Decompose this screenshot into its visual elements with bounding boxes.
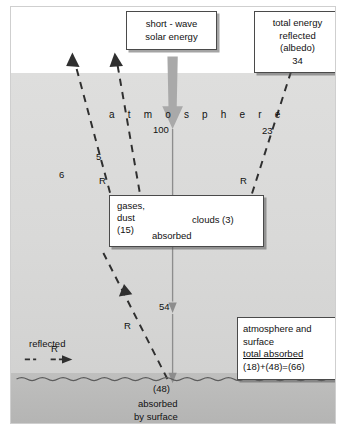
right-flux-value-label: 23 (262, 125, 273, 136)
total-absorbed-box: atmosphere and surface total absorbed (1… (237, 317, 336, 380)
gases-line2: dust (117, 212, 145, 224)
clouds-label: clouds (3) (192, 214, 234, 226)
albedo-line1: total energy (259, 17, 336, 30)
surface-reflect-symbol-label: R (124, 320, 131, 331)
legend-label: reflected (29, 338, 65, 349)
surface-absorbed-line1: absorbed (138, 398, 178, 409)
gases-line1: gases, (117, 200, 145, 212)
absorbed-label: absorbed (152, 230, 192, 242)
diagram-panel: short - wave solar energy total energy r… (10, 6, 336, 424)
legend-symbol: R (51, 343, 58, 354)
solar-energy-line2: solar energy (131, 31, 212, 44)
outer-flux-value-label: 6 (59, 169, 64, 180)
totals-line1: atmosphere and surface (243, 323, 335, 348)
albedo-line2: reflected (259, 30, 336, 43)
left-flux-symbol-label: R (99, 175, 106, 186)
surface-absorbed-value: (48) (153, 383, 170, 394)
diagram-root: short - wave solar energy total energy r… (0, 0, 348, 432)
gases-clouds-box: gases, dust (15) clouds (3) absorbed (109, 195, 264, 247)
gases-line3: (15) (117, 224, 145, 236)
atmosphere-label: a t m o s p h e r e (109, 109, 286, 120)
reflected-ray-6-arrowhead (66, 52, 79, 66)
albedo-box: total energy reflected (albedo) 34 (254, 11, 336, 73)
reflected-ray-surface-arrowhead (119, 284, 132, 296)
transmitted-value-label: 54 (159, 301, 170, 312)
left-flux-value-label: 5 (96, 151, 101, 162)
albedo-value: 34 (259, 55, 336, 68)
surface-absorbed-line2: by surface (134, 411, 178, 422)
solar-energy-line1: short - wave (131, 18, 212, 31)
totals-line2: total absorbed (243, 348, 335, 361)
transmission-arrowhead (168, 303, 176, 313)
legend-arrow (25, 355, 73, 363)
reflected-ray-5-arrowhead (110, 52, 123, 66)
totals-line3: (18)+(48)=(66) (243, 361, 335, 374)
gases-dust-label: gases, dust (15) (117, 200, 145, 236)
albedo-line3: (albedo) (259, 42, 336, 55)
right-flux-symbol-label: R (240, 175, 247, 186)
reflected-ray-surface (103, 253, 167, 379)
incoming-value-label: 100 (153, 124, 169, 135)
solar-energy-box: short - wave solar energy (126, 11, 217, 50)
